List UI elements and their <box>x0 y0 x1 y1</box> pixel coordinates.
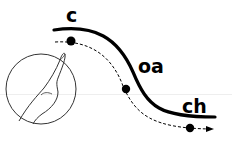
middle-dot <box>122 85 130 93</box>
letter-formation-diagram <box>0 0 232 144</box>
pointing-finger-icon <box>6 53 76 124</box>
label-middle: oa <box>138 57 164 76</box>
start-dot <box>67 37 76 46</box>
end-dot <box>186 124 194 132</box>
arrow-right-icon <box>206 126 214 132</box>
label-start: c <box>66 6 77 25</box>
label-end: ch <box>182 97 207 116</box>
